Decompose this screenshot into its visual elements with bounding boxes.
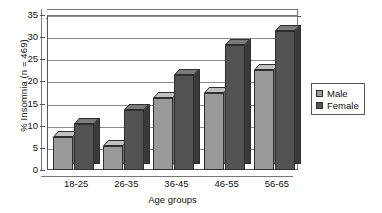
bar-face — [174, 75, 194, 170]
x-tick-label: 18-25 — [48, 178, 104, 189]
legend-label-male: Male — [327, 88, 348, 99]
y-tick-label: 20 — [16, 76, 38, 85]
y-axis-tick — [40, 15, 45, 16]
bar-group — [248, 15, 298, 170]
bar-face — [153, 98, 173, 170]
bar-face — [53, 137, 73, 170]
x-axis-title: Age groups — [47, 194, 298, 205]
y-tick-label: 0 — [16, 165, 38, 174]
bars-layer — [47, 15, 298, 170]
y-tick-label: 15 — [16, 99, 38, 108]
bar-group — [47, 15, 97, 170]
bar-face — [103, 146, 123, 170]
bar-side — [295, 25, 301, 164]
x-tick-label: 46-55 — [199, 178, 255, 189]
x-tick-label: 56-65 — [249, 178, 305, 189]
x-tick-label: 26-35 — [98, 178, 154, 189]
bar-group — [147, 15, 197, 170]
legend-label-female: Female — [327, 100, 359, 111]
bar-male-56-65[interactable] — [254, 70, 274, 170]
y-axis-tick — [40, 148, 45, 149]
bar-male-26-35[interactable] — [103, 146, 123, 170]
y-axis-tick — [40, 126, 45, 127]
legend-item-female[interactable]: Female — [316, 99, 359, 111]
legend-swatch-male-icon — [316, 90, 323, 97]
y-axis-tick-labels: 05101520253035 — [14, 0, 38, 213]
y-axis-tick — [40, 170, 45, 171]
bar-female-36-45[interactable] — [174, 75, 194, 170]
y-axis-tick — [40, 104, 45, 105]
y-tick-label: 10 — [16, 121, 38, 130]
bar-female-26-35[interactable] — [124, 110, 144, 170]
bar-face — [275, 31, 295, 170]
y-tick-label: 30 — [16, 32, 38, 41]
chart-figure: % Insomnia (n = 469) 05101520253035 18-2… — [0, 0, 382, 213]
bar-group — [198, 15, 248, 170]
plot-floor — [41, 169, 299, 176]
y-tick-label: 5 — [16, 143, 38, 152]
bar-male-46-55[interactable] — [204, 93, 224, 171]
bar-male-18-25[interactable] — [53, 137, 73, 170]
bar-female-56-65[interactable] — [275, 31, 295, 170]
bar-face — [124, 110, 144, 170]
bar-face — [225, 45, 245, 170]
legend-swatch-female-icon — [316, 102, 323, 109]
bar-female-18-25[interactable] — [74, 124, 94, 171]
bar-group — [97, 15, 147, 170]
x-tick-label: 36-45 — [149, 178, 205, 189]
bar-face — [254, 70, 274, 170]
x-axis-tick-labels: 18-2526-3536-4546-5556-65 — [47, 178, 305, 192]
y-axis-tick — [40, 81, 45, 82]
legend-item-male[interactable]: Male — [316, 87, 359, 99]
y-axis-tick — [40, 59, 45, 60]
bar-female-46-55[interactable] — [225, 45, 245, 170]
y-tick-label: 25 — [16, 54, 38, 63]
y-axis-tick — [40, 37, 45, 38]
chart-legend: Male Female — [311, 83, 365, 115]
bar-male-36-45[interactable] — [153, 98, 173, 170]
bar-face — [204, 93, 224, 171]
y-tick-label: 35 — [16, 10, 38, 19]
bar-face — [74, 124, 94, 171]
